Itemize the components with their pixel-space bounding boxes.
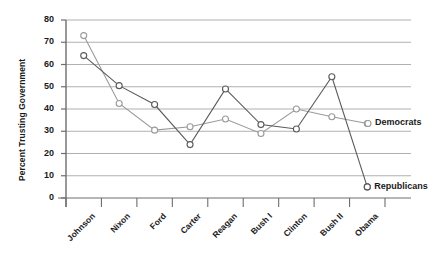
- data-point-democrats: [258, 130, 264, 136]
- data-point-democrats: [152, 127, 158, 133]
- y-tick-label: 10: [32, 170, 54, 180]
- legend-label-democrats: Democrats: [375, 117, 422, 127]
- y-tick-label: 20: [32, 148, 54, 158]
- y-tick-label: 80: [32, 14, 54, 24]
- legend-marker-republicans: [364, 184, 370, 190]
- data-point-democrats: [293, 106, 299, 112]
- data-point-republicans: [152, 102, 158, 108]
- data-point-republicans: [293, 126, 299, 132]
- trust-in-government-line-chart: Percent Trusting Government 010203040506…: [0, 0, 443, 258]
- data-point-democrats: [329, 114, 335, 120]
- data-point-republicans: [258, 122, 264, 128]
- legend-marker-democrats: [365, 120, 371, 126]
- legend-label-republicans: Republicans: [374, 181, 428, 191]
- y-tick-label: 60: [32, 59, 54, 69]
- data-point-democrats: [223, 116, 229, 122]
- data-point-democrats: [116, 100, 122, 106]
- data-point-republicans: [81, 53, 87, 59]
- data-point-republicans: [223, 86, 229, 92]
- y-tick-label: 0: [32, 192, 54, 202]
- data-point-republicans: [329, 74, 335, 80]
- data-point-republicans: [187, 142, 193, 148]
- data-point-republicans: [116, 83, 122, 89]
- data-point-democrats: [81, 33, 87, 39]
- y-tick-label: 70: [32, 36, 54, 46]
- y-tick-label: 40: [32, 103, 54, 113]
- data-point-democrats: [187, 124, 193, 130]
- y-tick-label: 50: [32, 81, 54, 91]
- y-tick-label: 30: [32, 125, 54, 135]
